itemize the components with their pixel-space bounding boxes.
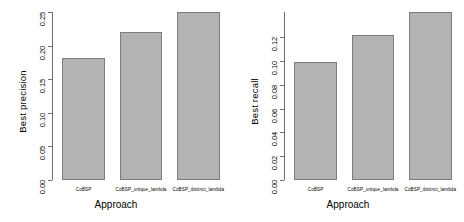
y-tick-mark: [48, 180, 52, 181]
y-tick-mark: [48, 113, 52, 114]
x-axis-title-left: Approach: [0, 199, 232, 210]
figure-two-panel-barcharts: Best precision 0.000.050.100.150.200.25 …: [0, 0, 464, 222]
y-tick-mark: [280, 156, 284, 157]
bar-CoBSP_distinct_lambda: [177, 12, 219, 180]
panel-best-precision: Best precision 0.000.050.100.150.200.25 …: [0, 0, 232, 222]
y-axis-title-left: Best precision: [17, 42, 28, 162]
plot-area-left: [53, 12, 225, 180]
y-tick-mark: [280, 37, 284, 38]
y-tick-label: 0.15: [39, 79, 47, 94]
y-tick-label: 0.12: [271, 37, 279, 52]
bar-CoBSP_distinct_lambda: [409, 12, 451, 180]
y-tick-label: 0.02: [271, 156, 279, 171]
bar-CoBSP: [62, 58, 104, 180]
y-tick-mark: [48, 79, 52, 80]
y-tick-mark: [48, 146, 52, 147]
y-tick-label: 0.25: [39, 12, 47, 27]
y-tick-mark: [280, 109, 284, 110]
y-tick-mark: [280, 132, 284, 133]
y-tick-label: 0.20: [39, 45, 47, 60]
x-tick-label-CoBSP: CoBSP: [76, 187, 92, 192]
x-tick-label-CoBSP_distinct_lambda: CoBSP_distinct_lambda: [173, 187, 225, 192]
y-tick-label: 0.00: [271, 180, 279, 195]
y-tick-mark: [280, 85, 284, 86]
y-tick-label: 0.00: [39, 180, 47, 195]
x-tick-label-CoBSP: CoBSP: [308, 187, 324, 192]
y-tick-mark: [48, 12, 52, 13]
y-tick-mark: [280, 61, 284, 62]
y-tick-mark: [280, 180, 284, 181]
x-tick-label-CoBSP_unique_lambda: CoBSP_unique_lambda: [116, 187, 167, 192]
y-tick-label: 0.06: [271, 108, 279, 123]
bar-CoBSP_unique_lambda: [120, 32, 162, 180]
y-tick-label: 0.08: [271, 85, 279, 100]
x-tick-label-CoBSP_distinct_lambda: CoBSP_distinct_lambda: [405, 187, 457, 192]
x-tick-label-CoBSP_unique_lambda: CoBSP_unique_lambda: [348, 187, 399, 192]
y-tick-mark: [48, 46, 52, 47]
y-axis-title-right: Best recall: [249, 42, 260, 162]
bar-CoBSP_unique_lambda: [352, 35, 394, 180]
x-axis-title-right: Approach: [232, 199, 464, 210]
panel-best-recall: Best recall 0.000.020.040.060.080.100.12…: [232, 0, 464, 222]
y-tick-label: 0.10: [271, 61, 279, 76]
y-tick-label: 0.04: [271, 132, 279, 147]
y-tick-label: 0.10: [39, 113, 47, 128]
y-tick-label: 0.05: [39, 146, 47, 161]
plot-area-right: [285, 12, 457, 180]
bar-CoBSP: [294, 62, 336, 180]
